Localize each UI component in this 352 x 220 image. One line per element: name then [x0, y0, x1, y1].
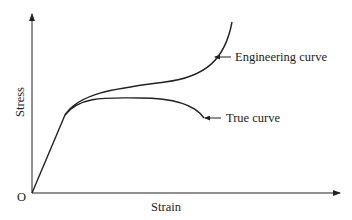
true-curve-label: True curve	[226, 111, 280, 125]
diagram-canvas: Engineering curve True curve Strain Stre…	[0, 0, 352, 220]
true-curve	[65, 98, 204, 118]
elastic-line	[32, 115, 65, 193]
engineering-curve	[65, 22, 232, 115]
y-axis-label: Stress	[13, 87, 27, 117]
engineering-curve-label: Engineering curve	[235, 50, 327, 64]
x-axis-label: Strain	[151, 200, 182, 214]
stress-strain-diagram: Engineering curve True curve Strain Stre…	[0, 0, 352, 220]
origin-label: O	[17, 190, 26, 204]
